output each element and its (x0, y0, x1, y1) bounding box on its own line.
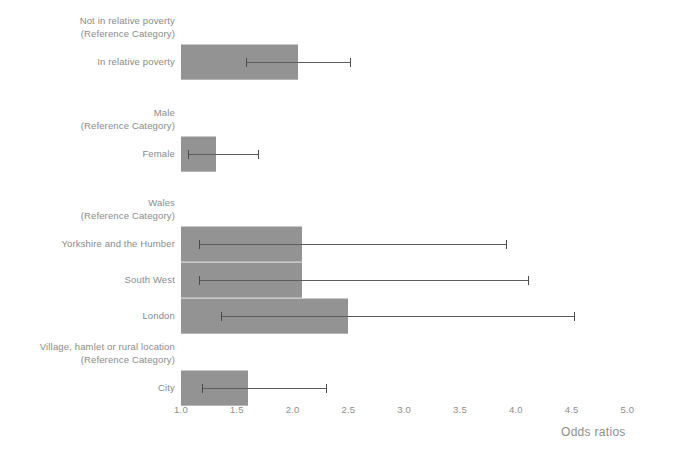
x-axis-tick-label: 2.0 (278, 404, 308, 415)
confidence-interval-upper-cap (350, 58, 351, 67)
reference-label-line2: (Reference Category) (0, 209, 175, 222)
confidence-interval-lower-cap (202, 384, 203, 393)
confidence-interval-lower-cap (199, 276, 200, 285)
x-axis-tick-label: 5.0 (612, 404, 642, 415)
reference-label-line2: (Reference Category) (0, 119, 175, 132)
confidence-interval-line (246, 62, 350, 63)
bar (181, 226, 302, 262)
odds-ratio-chart: Not in relative poverty(Reference Catego… (0, 0, 675, 459)
confidence-interval-upper-cap (528, 276, 529, 285)
reference-category-label: Male(Reference Category) (0, 106, 175, 132)
reference-label-line1: Wales (0, 196, 175, 209)
confidence-interval-upper-cap (258, 150, 259, 159)
confidence-interval-line (202, 388, 326, 389)
x-axis-tick-label: 1.5 (222, 404, 252, 415)
x-axis-tick-label: 1.0 (166, 404, 196, 415)
confidence-interval-lower-cap (221, 312, 222, 321)
confidence-interval-lower-cap (188, 150, 189, 159)
x-axis-tick-label: 4.5 (557, 404, 587, 415)
confidence-interval-line (199, 244, 506, 245)
confidence-interval-upper-cap (326, 384, 327, 393)
reference-label-line1: Not in relative poverty (0, 14, 175, 27)
x-axis-title: Odds ratios (561, 425, 626, 439)
reference-label-line2: (Reference Category) (0, 27, 175, 40)
x-axis-tick-label: 4.0 (501, 404, 531, 415)
bar (181, 298, 348, 334)
category-label: Female (0, 147, 175, 160)
reference-label-line1: Village, hamlet or rural location (0, 340, 175, 353)
confidence-interval-lower-cap (246, 58, 247, 67)
bar (181, 370, 248, 406)
confidence-interval-line (188, 154, 258, 155)
confidence-interval-line (199, 280, 528, 281)
confidence-interval-line (221, 316, 574, 317)
category-label: South West (0, 273, 175, 286)
bar (181, 262, 302, 298)
bar (181, 44, 298, 80)
bar (181, 136, 216, 172)
x-axis-tick-label: 2.5 (333, 404, 363, 415)
category-label: City (0, 381, 175, 394)
reference-category-label: Wales(Reference Category) (0, 196, 175, 222)
x-axis-tick-label: 3.5 (445, 404, 475, 415)
x-axis-tick-label: 3.0 (389, 404, 419, 415)
category-label: London (0, 309, 175, 322)
confidence-interval-upper-cap (506, 240, 507, 249)
confidence-interval-upper-cap (574, 312, 575, 321)
reference-category-label: Village, hamlet or rural location(Refere… (0, 340, 175, 366)
category-label: Yorkshire and the Humber (0, 237, 175, 250)
reference-label-line1: Male (0, 106, 175, 119)
category-label: In relative poverty (0, 55, 175, 68)
reference-category-label: Not in relative poverty(Reference Catego… (0, 14, 175, 40)
reference-label-line2: (Reference Category) (0, 353, 175, 366)
confidence-interval-lower-cap (199, 240, 200, 249)
